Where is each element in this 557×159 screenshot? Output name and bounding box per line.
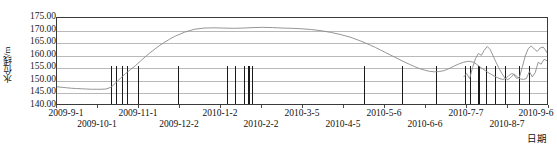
series-line xyxy=(464,46,547,80)
x-tick-label: 2010-2-2 xyxy=(244,119,279,130)
x-axis-tick-labels: 2009-9-12009-10-12009-11-12009-12-22010-… xyxy=(0,108,557,136)
x-tick-label: 2009-11-1 xyxy=(118,108,157,119)
y-tick-label: 145.00 xyxy=(30,88,56,98)
x-tick-label: 2010-6-6 xyxy=(408,119,443,130)
x-tick-label: 2009-9-1 xyxy=(49,108,84,119)
x-tick-label: 2010-3-5 xyxy=(285,108,320,119)
series-lines xyxy=(57,18,547,104)
x-tick-label: 2010-1-2 xyxy=(203,108,238,119)
x-tick-label: 2010-8-7 xyxy=(490,119,525,130)
plot-area xyxy=(56,17,548,105)
y-tick-label: 160.00 xyxy=(30,50,56,60)
x-tick-label: 2009-12-2 xyxy=(159,119,199,130)
y-tick-label: 150.00 xyxy=(30,75,56,85)
chart-root: 水位线/m 175.00170.00165.00160.00155.00150.… xyxy=(0,0,557,159)
x-tick-label: 2010-5-6 xyxy=(367,108,402,119)
y-tick-label: 165.00 xyxy=(30,37,56,47)
x-tick-label: 2009-10-1 xyxy=(77,119,117,130)
x-tick-label: 2010-9-6 xyxy=(519,108,554,119)
y-tick-label: 155.00 xyxy=(30,63,56,73)
series-line xyxy=(57,27,547,89)
y-tick-label: 170.00 xyxy=(30,25,56,35)
y-tick-label: 175.00 xyxy=(30,12,56,22)
x-tick-label: 2010-4-5 xyxy=(326,119,361,130)
y-axis-tick-labels: 175.00170.00165.00160.00155.00150.00145.… xyxy=(14,14,56,106)
x-tick-label: 2010-7-7 xyxy=(449,108,484,119)
x-axis-title: 日期 xyxy=(527,134,547,145)
